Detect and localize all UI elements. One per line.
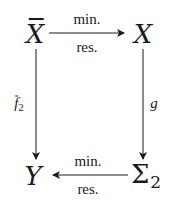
overline xyxy=(15,96,18,97)
node-x-bar: X xyxy=(26,21,45,47)
top-arrow-label-above: min. xyxy=(73,12,100,27)
node-y: Y xyxy=(24,163,41,189)
node-subscript: 2 xyxy=(150,172,161,192)
commutative-diagram: X X Y Σ2 min. res. min. res. f2 g xyxy=(0,0,172,206)
bottom-arrow-label-below: res. xyxy=(77,182,98,197)
label-subscript: 2 xyxy=(18,101,24,113)
node-x: X xyxy=(134,21,153,47)
top-arrow-label-below: res. xyxy=(76,40,97,55)
node-symbol: X xyxy=(134,19,153,49)
bottom-arrow-label-above: min. xyxy=(74,154,101,169)
label-symbol: f xyxy=(14,95,18,111)
node-symbol: Σ xyxy=(131,159,149,189)
node-sigma-2: Σ2 xyxy=(131,161,161,191)
right-arrow-label: g xyxy=(150,96,158,111)
node-symbol: Y xyxy=(24,161,41,191)
left-arrow-label: f2 xyxy=(14,96,24,113)
overline xyxy=(29,18,44,20)
node-symbol: X xyxy=(26,19,45,49)
